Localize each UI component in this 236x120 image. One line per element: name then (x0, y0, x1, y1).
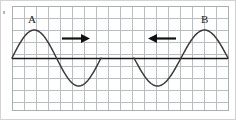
arrow-right-icon (62, 34, 90, 43)
arrow-head (81, 34, 90, 43)
arrow-left-icon (148, 34, 176, 43)
wave-label-b: B (201, 14, 208, 25)
wave-diagram-figure: A B (0, 0, 236, 120)
wave-label-a: A (28, 14, 36, 25)
arrow-head (148, 34, 157, 43)
